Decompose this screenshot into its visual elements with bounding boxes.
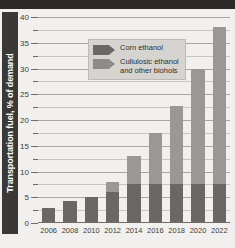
y-tick-mark-major	[31, 43, 38, 44]
y-tick-mark-major	[31, 120, 38, 121]
y-tick-mark-minor	[33, 210, 38, 211]
bar-column	[149, 133, 162, 223]
y-tick-label: 40	[7, 13, 29, 22]
y-tick-mark-major	[31, 17, 38, 18]
bar-column	[63, 201, 76, 223]
bar-column	[42, 208, 55, 223]
y-tick-label: 35	[7, 38, 29, 47]
bar-segment-corn	[106, 192, 119, 223]
legend-swatch-icon-cellulosic	[93, 59, 115, 69]
y-tick-label: 10	[7, 167, 29, 176]
y-tick-label: 30	[7, 64, 29, 73]
gridline-major	[38, 17, 230, 18]
y-tick-mark-minor	[33, 159, 38, 160]
x-tick-label: 2016	[147, 226, 164, 235]
top-banner-strip	[0, 0, 235, 9]
bar-column	[191, 69, 204, 224]
bar-segment-corn	[42, 208, 55, 223]
y-tick-mark-minor	[33, 30, 38, 31]
y-tick-mark-major	[31, 197, 38, 198]
chart-legend: Corn ethanol Cullulosic ethanol and othe…	[88, 39, 186, 80]
x-tick-label: 2022	[211, 226, 228, 235]
x-tick-label: 2018	[168, 226, 185, 235]
bar-segment-corn	[170, 184, 183, 223]
y-tick-label: 5	[7, 193, 29, 202]
x-tick-label: 2012	[104, 226, 121, 235]
legend-label-corn: Corn ethanol	[120, 44, 163, 53]
bar-segment-cellulosic	[191, 69, 204, 185]
y-tick-mark-major	[31, 69, 38, 70]
y-tick-mark-major	[31, 172, 38, 173]
bar-segment-corn	[149, 184, 162, 223]
y-tick-mark-minor	[33, 56, 38, 57]
x-tick-label: 2020	[190, 226, 207, 235]
y-tick-mark-minor	[33, 81, 38, 82]
bar-column	[85, 197, 98, 223]
bar-column	[170, 106, 183, 223]
y-tick-label: 0	[7, 219, 29, 228]
bar-segment-corn	[213, 184, 226, 223]
bar-segment-cellulosic	[213, 27, 226, 184]
plot-area: 0510152025303540 20062008201020122014201…	[38, 17, 230, 223]
y-tick-mark-major	[31, 94, 38, 95]
x-tick-label: 2010	[83, 226, 100, 235]
y-tick-mark-minor	[33, 184, 38, 185]
x-tick-label: 2006	[40, 226, 57, 235]
x-axis-line	[38, 222, 230, 223]
bar-column	[213, 27, 226, 223]
legend-item-cellulosic-ethanol: Cullulosic ethanol and other biohols	[93, 58, 179, 75]
bar-segment-corn	[63, 201, 76, 223]
legend-swatch-icon-corn	[93, 45, 115, 55]
legend-item-corn-ethanol: Corn ethanol	[93, 44, 179, 55]
y-tick-label: 15	[7, 141, 29, 150]
y-tick-mark-minor	[33, 133, 38, 134]
y-tick-label: 20	[7, 116, 29, 125]
y-tick-mark-minor	[33, 107, 38, 108]
gridline-minor	[38, 30, 230, 31]
bar-segment-cellulosic	[170, 106, 183, 185]
x-tick-label: 2014	[126, 226, 143, 235]
bar-column	[127, 156, 140, 223]
y-tick-label: 25	[7, 90, 29, 99]
bar-segment-corn	[191, 184, 204, 223]
bar-segment-cellulosic	[106, 182, 119, 192]
bar-segment-corn	[127, 184, 140, 223]
y-tick-mark-major	[31, 146, 38, 147]
y-tick-mark-major	[31, 223, 38, 224]
legend-label-cellulosic: Cullulosic ethanol and other biohols	[120, 58, 179, 75]
x-tick-label: 2008	[62, 226, 79, 235]
bar-column	[106, 182, 119, 223]
bar-segment-cellulosic	[127, 156, 140, 184]
bar-segment-corn	[85, 197, 98, 223]
bar-segment-cellulosic	[149, 133, 162, 185]
chart-figure: Transportation fuel, % of demand 0510152…	[0, 0, 235, 248]
